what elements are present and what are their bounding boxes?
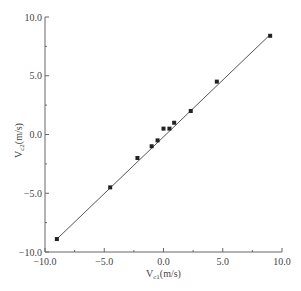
x-tick-label: 0.0	[157, 256, 170, 267]
x-tick-label: −10.0	[33, 256, 56, 267]
regression-line	[57, 35, 270, 239]
plot-area: −10.0−5.00.05.010.0−10.0−5.00.05.010.0	[19, 12, 291, 268]
x-tick-label: 10.0	[273, 256, 291, 267]
x-tick-label: −5.0	[95, 256, 113, 267]
data-point	[172, 121, 176, 125]
data-point	[167, 127, 171, 131]
data-point	[108, 185, 112, 189]
y-tick-label: −10.0	[19, 247, 42, 258]
tick-labels: −10.0−5.00.05.010.0−10.0−5.00.05.010.0	[19, 12, 291, 268]
data-point	[162, 127, 166, 131]
y-axis-label: Vc2(m/s)	[13, 123, 26, 158]
y-tick-label: 5.0	[30, 70, 43, 81]
data-point	[156, 138, 160, 142]
y-tick-label: −5.0	[24, 188, 42, 199]
x-tick-label: 5.0	[217, 256, 230, 267]
data-point	[268, 34, 272, 38]
data-point	[55, 237, 59, 241]
data-point	[150, 144, 154, 148]
y-tick-label: 0.0	[30, 129, 43, 140]
fit-line	[57, 35, 270, 239]
data-point	[189, 109, 193, 113]
data-point	[135, 156, 139, 160]
data-point	[215, 80, 219, 84]
scatter-chart: −10.0−5.00.05.010.0−10.0−5.00.05.010.0 V…	[0, 0, 301, 291]
x-axis-label: Vc1(m/s)	[146, 268, 181, 281]
y-tick-label: 10.0	[25, 12, 43, 23]
